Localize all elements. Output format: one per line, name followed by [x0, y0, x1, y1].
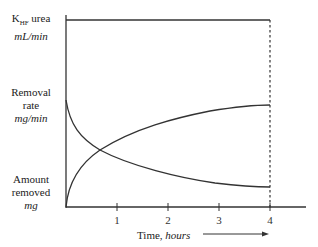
- arrow-right-icon: [262, 232, 269, 237]
- removal-rate-curve: [66, 100, 270, 187]
- x-axis-title: Time, hours: [137, 229, 190, 241]
- x-tick-labels: 1 2 3 4: [114, 214, 273, 226]
- svg-text:2: 2: [165, 214, 171, 226]
- chart-plot: 1 2 3 4: [0, 0, 318, 247]
- amount-removed-curve: [66, 105, 270, 207]
- svg-text:3: 3: [216, 214, 222, 226]
- svg-text:4: 4: [267, 214, 273, 226]
- svg-text:1: 1: [114, 214, 120, 226]
